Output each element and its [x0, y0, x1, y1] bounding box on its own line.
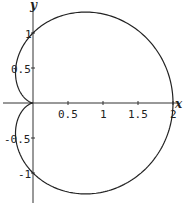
y-tick-label: -1: [18, 168, 31, 181]
x-tick-label: 0.5: [58, 108, 78, 121]
x-tick-label: 1.5: [128, 108, 148, 121]
y-axis-label: y: [29, 0, 38, 12]
y-tick-label: 0.5: [11, 63, 31, 76]
x-axis-label: x: [174, 97, 183, 111]
x-tick-label: 1: [100, 108, 107, 121]
cardioid-plot: 0.5 1 1.5 2 1 0.5 -0.5 -1 x y: [0, 0, 186, 207]
